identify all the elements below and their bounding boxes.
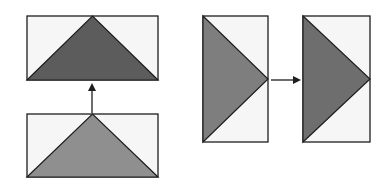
- bottom-left-rect: [27, 114, 158, 177]
- right-first-rect: [203, 16, 268, 142]
- panels-group: [27, 16, 370, 177]
- top-left-rect: [27, 16, 158, 80]
- right-second-rect: [303, 16, 370, 142]
- diagram-canvas: [0, 0, 384, 190]
